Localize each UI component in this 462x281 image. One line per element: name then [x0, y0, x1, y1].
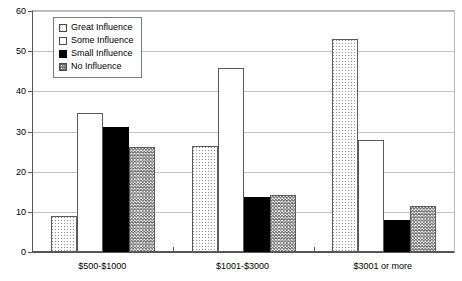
bar — [410, 206, 436, 252]
legend-swatch-icon — [59, 24, 67, 32]
legend: Great InfluenceSome InfluenceSmall Influ… — [53, 17, 142, 78]
legend-item: Small Influence — [59, 47, 134, 60]
legend-item-label: Some Influence — [71, 36, 134, 45]
bar — [358, 140, 384, 252]
bar — [129, 147, 155, 252]
legend-item-label: Small Influence — [71, 49, 133, 58]
y-axis-tick-label: 30 — [16, 127, 26, 136]
legend-item: Great Influence — [59, 21, 134, 34]
legend-swatch-icon — [59, 37, 67, 45]
x-axis-category-separator — [314, 247, 315, 252]
y-axis-tick-label: 40 — [16, 87, 26, 96]
bar — [192, 146, 218, 252]
bar — [77, 113, 103, 252]
bar — [332, 39, 358, 252]
legend-swatch-icon — [59, 50, 67, 58]
bar — [218, 68, 244, 252]
bar — [270, 195, 296, 252]
bar — [51, 216, 77, 252]
legend-item-label: Great Influence — [71, 23, 133, 32]
y-axis-tick-label: 50 — [16, 47, 26, 56]
bar — [103, 127, 129, 252]
x-axis-category-label: $3001 or more — [354, 262, 413, 271]
bar — [384, 220, 410, 252]
y-axis-tick-label: 60 — [16, 7, 26, 16]
x-axis-category-label: $1001-$3000 — [216, 262, 269, 271]
x-axis: $500-$1000$1001-$3000$3001 or more — [32, 256, 455, 278]
legend-swatch-icon — [59, 63, 67, 71]
legend-item-label: No Influence — [71, 62, 122, 71]
bar-chart: 0102030405060 $500-$1000$1001-$3000$3001… — [0, 0, 462, 281]
y-axis-tick-label: 10 — [16, 207, 26, 216]
y-axis-tick-label: 0 — [21, 248, 26, 257]
legend-item: No Influence — [59, 60, 134, 73]
bar — [244, 197, 270, 252]
legend-item: Some Influence — [59, 34, 134, 47]
y-axis-tick-label: 20 — [16, 167, 26, 176]
x-axis-category-label: $500-$1000 — [78, 262, 126, 271]
y-axis: 0102030405060 — [0, 0, 32, 253]
x-axis-category-separator — [173, 247, 174, 252]
